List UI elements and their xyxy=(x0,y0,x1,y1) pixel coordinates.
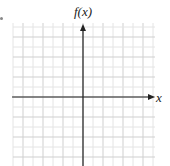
coordinate-grid xyxy=(0,0,170,166)
x-axis-arrow-icon xyxy=(148,94,155,100)
grid-lines xyxy=(13,23,155,166)
x-axis-label: x xyxy=(156,91,162,104)
y-axis-label: f(x) xyxy=(74,5,92,18)
